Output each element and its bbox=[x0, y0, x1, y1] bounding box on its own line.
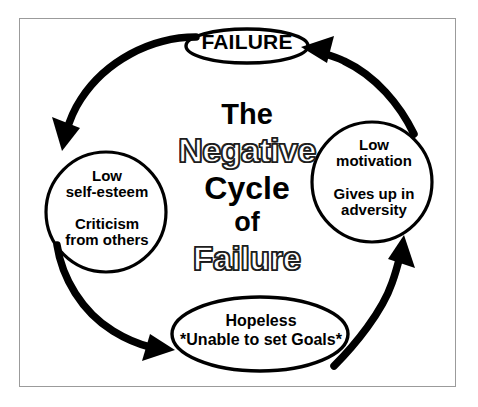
arrow-bottom-to-right bbox=[334, 235, 415, 366]
failure-node-ellipse bbox=[186, 29, 308, 63]
bottom-node-ellipse bbox=[172, 297, 348, 371]
diagram-canvas: FAILURE Low self-esteem Criticism from o… bbox=[0, 0, 478, 407]
right-node-circle bbox=[312, 122, 432, 242]
cycle-diagram-graphics bbox=[0, 0, 478, 407]
arrow-failure-to-left bbox=[52, 37, 196, 151]
arrow-right-to-failure bbox=[301, 36, 414, 134]
left-node-circle bbox=[46, 152, 166, 272]
